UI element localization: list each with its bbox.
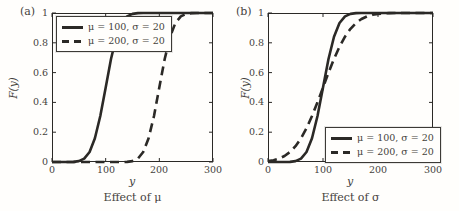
panel-caption-b: Effect of σ <box>290 191 411 204</box>
legend-label: μ = 200, σ = 20 <box>357 146 434 158</box>
y-tick-label: 1 <box>238 7 264 19</box>
panel-caption-a: Effect of μ <box>72 191 193 204</box>
figure-two-panel-cdf: (a) 1 0.8 0.6 0.4 0.2 0 0 100 200 300 F(… <box>0 0 459 211</box>
legend-label: μ = 100, σ = 20 <box>357 132 434 144</box>
legend-entry: μ = 100, σ = 20 <box>62 20 165 34</box>
x-tick-label: 0 <box>35 164 69 176</box>
y-axis-label-a: F(y) <box>7 77 19 98</box>
y-tick-label: 0.2 <box>238 126 264 138</box>
x-tick-label: 0 <box>251 164 285 176</box>
x-axis-label-a: y <box>112 175 152 188</box>
y-tick-label: 0.8 <box>238 37 264 49</box>
panel-b: (b) 1 0.8 0.6 0.4 0.2 0 0 100 200 300 F(… <box>230 0 459 211</box>
solid-line-sample-icon <box>62 26 83 29</box>
dashed-line-sample-icon <box>331 151 352 154</box>
legend-entry: μ = 200, σ = 20 <box>331 145 434 159</box>
x-tick-label: 300 <box>196 164 230 176</box>
y-axis-label-b: F(y) <box>239 77 251 98</box>
panel-a: (a) 1 0.8 0.6 0.4 0.2 0 0 100 200 300 F(… <box>0 0 230 211</box>
legend-a: μ = 100, σ = 20 μ = 200, σ = 20 <box>56 16 172 52</box>
x-axis-label-b: y <box>330 175 370 188</box>
y-tick-label: 0.4 <box>22 96 48 108</box>
y-tick-label: 0.8 <box>22 37 48 49</box>
solid-line-sample-icon <box>331 137 352 140</box>
legend-entry: μ = 100, σ = 20 <box>331 131 434 145</box>
legend-b: μ = 100, σ = 20 μ = 200, σ = 20 <box>325 127 441 163</box>
dashed-line-sample-icon <box>62 40 83 43</box>
legend-entry: μ = 200, σ = 20 <box>62 34 165 48</box>
legend-label: μ = 200, σ = 20 <box>88 35 165 47</box>
legend-label: μ = 100, σ = 20 <box>88 21 165 33</box>
y-tick-label: 0.2 <box>22 126 48 138</box>
y-tick-label: 0.6 <box>22 67 48 79</box>
y-tick-label: 1 <box>22 7 48 19</box>
x-tick-label: 300 <box>416 164 450 176</box>
